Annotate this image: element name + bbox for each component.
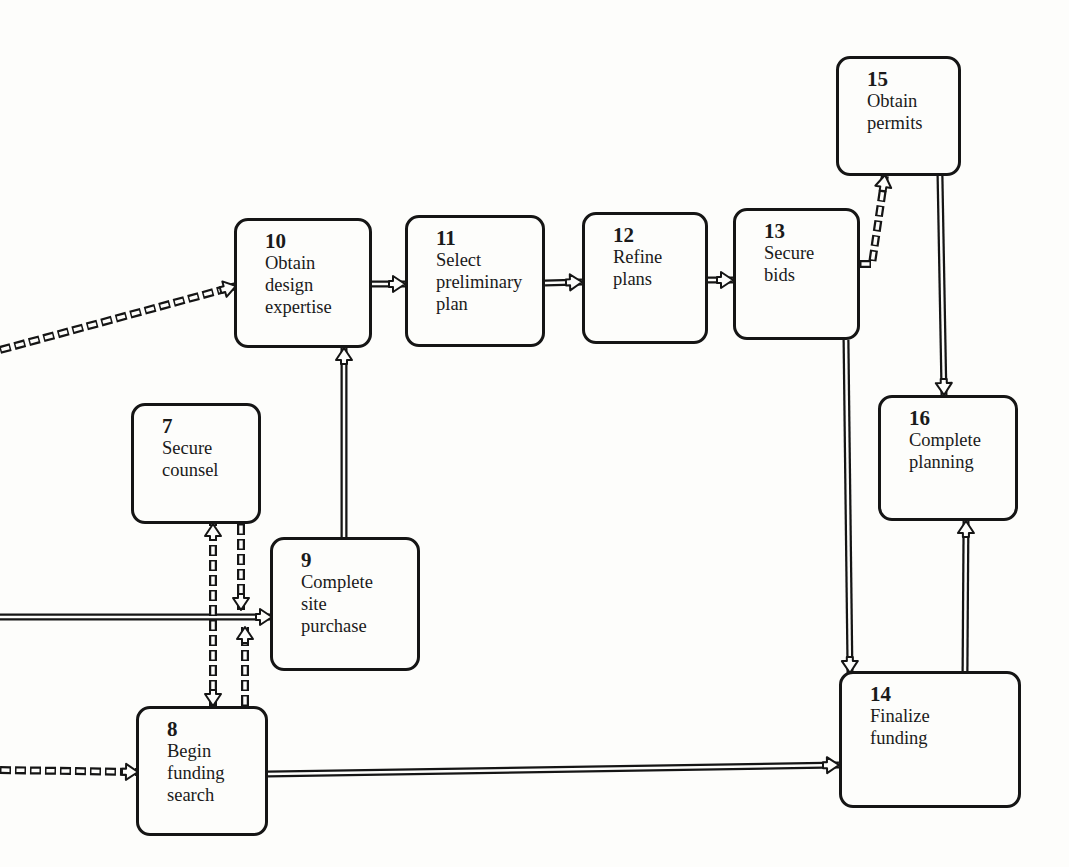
step-number: 15: [867, 69, 958, 90]
flowchart: 10 Obtain design expertise 11 Select pre…: [0, 0, 1069, 867]
step-label: Complete planning: [909, 429, 1015, 473]
process-box-13: 13 Secure bids: [733, 208, 860, 340]
edge-offscreen-left-to-9: [0, 609, 272, 625]
step-number: 8: [167, 719, 265, 740]
step-number: 9: [301, 550, 417, 571]
step-number: 11: [436, 228, 542, 249]
step-label: Begin funding search: [167, 740, 265, 806]
process-box-7: 7 Secure counsel: [131, 403, 261, 524]
step-label: Obtain design expertise: [265, 252, 369, 318]
process-box-15: 15 Obtain permits: [836, 56, 961, 176]
edge-8-to-9: [237, 627, 253, 706]
process-box-10: 10 Obtain design expertise: [234, 218, 372, 348]
edge-9-to-10: [336, 348, 352, 537]
step-label: Secure bids: [764, 242, 857, 286]
edge-11-to-12: [545, 274, 582, 290]
edge-offscreen-left-to-10: [0, 281, 236, 350]
step-label: Complete site purchase: [301, 571, 417, 637]
edge-13-to-15: [860, 175, 891, 264]
step-number: 7: [162, 416, 258, 437]
edge-13-to-14: [842, 340, 858, 673]
process-box-11: 11 Select preliminary plan: [405, 215, 545, 347]
step-label: Obtain permits: [867, 90, 958, 134]
edge-8-to-14: [268, 757, 839, 774]
process-box-12: 12 Refine plans: [582, 212, 708, 344]
step-number: 16: [909, 408, 1015, 429]
step-number: 13: [764, 221, 857, 242]
step-label: Select preliminary plan: [436, 249, 542, 315]
step-number: 12: [613, 225, 705, 246]
process-box-14: 14 Finalize funding: [839, 671, 1021, 808]
edge-14-to-16: [958, 521, 974, 671]
step-label: Finalize funding: [870, 705, 1018, 749]
process-box-9: 9 Complete site purchase: [270, 537, 420, 671]
step-number: 14: [870, 684, 1018, 705]
edge-7-to-9: [233, 524, 249, 610]
process-box-16: 16 Complete planning: [878, 395, 1018, 521]
edge-10-to-11: [372, 276, 405, 292]
process-box-8: 8 Begin funding search: [136, 706, 268, 836]
step-label: Refine plans: [613, 246, 705, 290]
step-number: 10: [265, 231, 369, 252]
edge-15-to-16: [936, 176, 952, 395]
step-label: Secure counsel: [162, 437, 258, 481]
edge-offscreen-left-to-8: [0, 764, 138, 780]
edge-12-to-13: [708, 272, 733, 288]
